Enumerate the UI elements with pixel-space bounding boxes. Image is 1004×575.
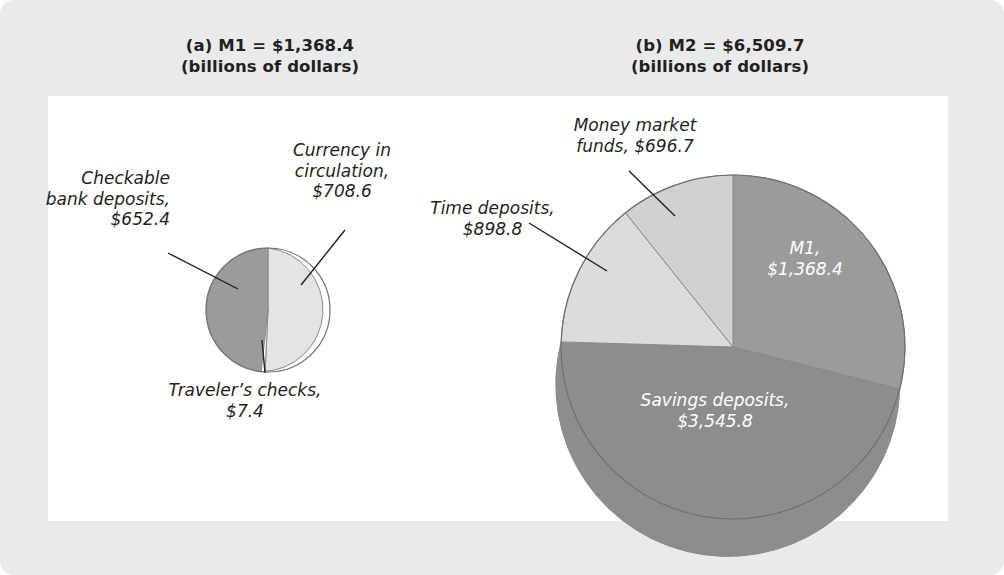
label-time-deposits: Time deposits, $898.8 — [410, 198, 575, 239]
label-currency-in-circulation: Currency in circulation, $708.6 — [272, 140, 412, 202]
chart-b-title-line1: (b) M2 = $6,509.7 — [636, 36, 805, 55]
figure-container: (a) M1 = $1,368.4 (billions of dollars) … — [0, 0, 1004, 575]
chart-panel — [48, 96, 948, 521]
chart-a-title-line1: (a) M1 = $1,368.4 — [186, 36, 354, 55]
chart-b-title: (b) M2 = $6,509.7 (billions of dollars) — [510, 36, 930, 77]
chart-a-title: (a) M1 = $1,368.4 (billions of dollars) — [60, 36, 480, 77]
label-money-market-funds: Money market funds, $696.7 — [540, 115, 730, 156]
chart-a-title-line2: (billions of dollars) — [60, 57, 480, 78]
label-savings-deposits: Savings deposits, $3,545.8 — [590, 390, 840, 431]
chart-b-title-line2: (billions of dollars) — [510, 57, 930, 78]
label-checkable-bank-deposits: Checkable bank deposits, $652.4 — [20, 168, 170, 230]
label-travelers-checks: Traveler’s checks, $7.4 — [130, 380, 360, 421]
label-m1-inside: M1, $1,368.4 — [735, 238, 875, 279]
